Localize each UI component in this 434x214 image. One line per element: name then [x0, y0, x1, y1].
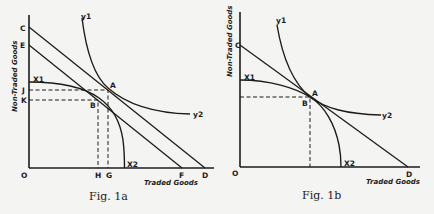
budget-line-cd: [29, 27, 205, 168]
y-axis-title: Non-Traded Goods: [11, 41, 19, 112]
label-y2: y2: [382, 111, 392, 120]
figure-caption: Fig. 1a: [89, 190, 128, 203]
x-axis-title: Traded Goods: [366, 178, 420, 186]
production-frontier: [240, 80, 341, 167]
budget-line-cd: [240, 45, 408, 167]
label-x2: X2: [344, 159, 355, 168]
label-e: E: [20, 41, 25, 50]
dashed-guide-b: [29, 100, 98, 168]
label-x2: X2: [127, 160, 138, 169]
dashed-guide-a: [240, 97, 310, 167]
label-origin: O: [232, 169, 238, 178]
label-g: G: [106, 171, 112, 180]
label-x1: X1: [244, 73, 255, 82]
figure-1b: C X1 y1 y2 A B X2 O D Traded Goods Non-T…: [226, 6, 420, 202]
dashed-guide-a: [29, 90, 108, 168]
y-axis-title: Non-Traded Goods: [226, 6, 234, 77]
x-axis-title: Traded Goods: [144, 179, 198, 187]
label-c: C: [235, 41, 241, 50]
figure-caption: Fig. 1b: [302, 189, 341, 202]
label-y1: y1: [276, 16, 286, 25]
diagram-canvas: C E J K X1 y1 y2 A B X2 O H G F D Traded…: [0, 0, 434, 214]
budget-line-ef: [29, 45, 182, 168]
label-d: D: [202, 171, 208, 180]
label-x1: X1: [33, 75, 44, 84]
label-origin: O: [21, 171, 27, 180]
label-j: J: [21, 86, 25, 95]
indifference-curve: [277, 25, 381, 115]
label-k: K: [21, 96, 28, 105]
production-frontier: [29, 82, 125, 168]
label-y2: y2: [193, 110, 203, 119]
label-c: C: [20, 24, 26, 33]
label-a: A: [110, 81, 116, 90]
label-b: B: [90, 101, 96, 110]
label-a: A: [312, 89, 318, 98]
label-h: H: [95, 171, 101, 180]
figure-1a: C E J K X1 y1 y2 A B X2 O H G F D Traded…: [11, 12, 214, 203]
label-b: B: [302, 99, 308, 108]
indifference-curve: [82, 18, 190, 114]
label-y1: y1: [81, 12, 91, 21]
